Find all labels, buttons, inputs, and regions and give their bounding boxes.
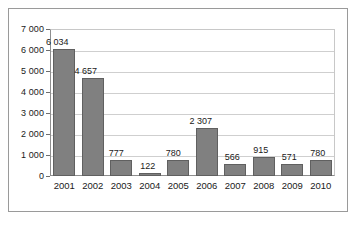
bar[interactable] [139, 173, 161, 176]
y-tick-mark [46, 50, 50, 51]
bar-value-label: 780 [298, 149, 338, 158]
y-tick-mark [46, 155, 50, 156]
x-tick-label: 2008 [250, 181, 279, 191]
bar[interactable] [224, 164, 246, 176]
x-tick-label: 2003 [107, 181, 136, 191]
bar-value-label: 4 657 [66, 67, 106, 76]
y-tick-label: 3 000 [0, 109, 44, 118]
y-tick-label: 0 [0, 172, 44, 181]
bar[interactable] [82, 78, 104, 176]
x-axis: 2001200220032004200520062007200820092010 [50, 181, 335, 197]
y-tick-label: 4 000 [0, 88, 44, 97]
x-tick-label: 2004 [136, 181, 165, 191]
y-axis: 01 0002 0003 0004 0005 0006 0007 000 [0, 0, 44, 226]
x-tick-label: 2006 [193, 181, 222, 191]
x-tick-label: 2010 [307, 181, 336, 191]
bar[interactable] [167, 160, 189, 176]
y-tick-mark [46, 29, 50, 30]
bar-value-label: 780 [153, 149, 193, 158]
bar-value-label: 777 [96, 149, 136, 158]
x-tick-label: 2005 [164, 181, 193, 191]
y-tick-label: 7 000 [0, 25, 44, 34]
bar-value-label: 2 307 [181, 117, 221, 126]
y-tick-label: 2 000 [0, 130, 44, 139]
bar[interactable] [196, 128, 218, 176]
y-tick-label: 5 000 [0, 67, 44, 76]
y-tick-mark [46, 71, 50, 72]
x-tick-label: 2007 [221, 181, 250, 191]
y-tick-mark [46, 92, 50, 93]
y-tick-mark [46, 134, 50, 135]
y-tick-label: 1 000 [0, 151, 44, 160]
x-tick-label: 2001 [50, 181, 79, 191]
y-tick-mark [46, 176, 50, 177]
bar-value-label: 122 [128, 162, 168, 171]
bar[interactable] [310, 160, 332, 176]
x-tick-label: 2009 [278, 181, 307, 191]
bar[interactable] [281, 164, 303, 176]
x-tick-label: 2002 [79, 181, 108, 191]
y-tick-mark [46, 113, 50, 114]
bar-chart-figure: 01 0002 0003 0004 0005 0006 0007 000 6 0… [0, 0, 356, 226]
bar-value-label: 6 034 [37, 38, 77, 47]
